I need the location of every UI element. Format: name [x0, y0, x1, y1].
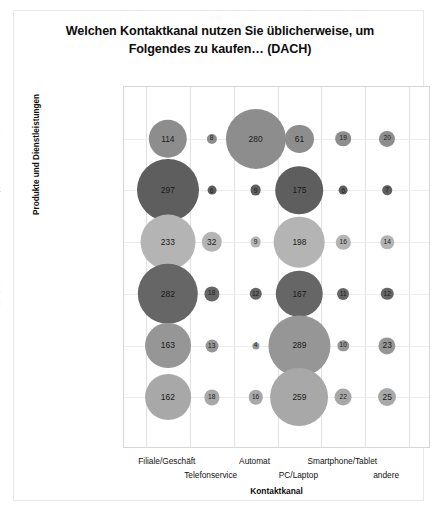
bubble-data-point: 23: [379, 337, 396, 354]
bubble-data-point: 18: [204, 286, 219, 301]
bubble-data-point: 10: [338, 340, 349, 351]
bubble-data-point: 297: [137, 159, 199, 221]
vertical-gridline: [409, 87, 410, 447]
bubble-data-point: 61: [285, 125, 313, 153]
x-axis-label: Filiale/Geschäft: [138, 456, 195, 466]
plot-area: 1148280611920297691756723332919816142821…: [123, 86, 430, 448]
bubble-data-point: 32: [202, 232, 222, 252]
chart-title-line-2: Folgendes zu kaufen… (DACH): [30, 40, 410, 58]
bubble-data-point: 14: [380, 235, 393, 248]
bubble-data-point: 9: [250, 185, 261, 196]
bubble-data-point: 4: [252, 342, 259, 349]
bubble-data-point: 22: [335, 389, 352, 406]
x-axis-title: Kontaktkanal: [123, 486, 430, 496]
x-axis-label: Automat: [239, 456, 270, 466]
bubble-data-point: 9: [250, 237, 261, 248]
bubble-data-point: 19: [335, 131, 351, 147]
vertical-gridline: [365, 87, 366, 447]
x-axis-label: andere: [373, 470, 399, 480]
bubble-chart-figure: Welchen Kontaktkanal nutzen Sie üblicher…: [0, 0, 437, 516]
x-axis-label: Telefonservice: [184, 470, 237, 480]
bubble-data-point: 12: [381, 288, 393, 300]
bubble-data-point: 162: [145, 374, 191, 420]
bubble-data-point: 175: [276, 167, 324, 215]
bubble-data-point: 7: [382, 186, 392, 196]
bubble-data-point: 8: [207, 134, 217, 144]
bubble-data-point: 114: [149, 120, 187, 158]
bubble-data-point: 16: [248, 390, 262, 404]
bubble-data-point: 12: [249, 288, 261, 300]
x-axis-label: Smartphone/Tablet: [307, 456, 377, 466]
bubble-data-point: 163: [145, 323, 191, 369]
chart-title-line-1: Welchen Kontaktkanal nutzen Sie üblicher…: [30, 22, 410, 40]
bubble-data-point: 280: [225, 109, 285, 169]
bubble-data-point: 6: [207, 186, 216, 195]
bubble-data-point: 20: [379, 131, 395, 147]
bubble-data-point: 16: [336, 235, 350, 249]
bubble-data-point: 13: [205, 339, 218, 352]
bubble-data-point: 167: [276, 271, 322, 317]
bubble-data-point: 259: [270, 368, 328, 426]
bubble-data-point: 233: [140, 215, 195, 270]
bubble-data-point: 11: [337, 288, 349, 300]
bubble-data-point: 18: [204, 390, 219, 405]
x-axis-label: PC/Laptop: [279, 470, 318, 480]
bubble-data-point: 289: [269, 315, 330, 376]
bubble-data-point: 198: [274, 217, 325, 268]
bubble-data-point: 6: [339, 186, 348, 195]
y-axis-title: Produkte und Dienstleistungen: [32, 65, 41, 245]
bubble-data-point: 25: [378, 388, 396, 406]
chart-title: Welchen Kontaktkanal nutzen Sie üblicher…: [30, 22, 410, 59]
